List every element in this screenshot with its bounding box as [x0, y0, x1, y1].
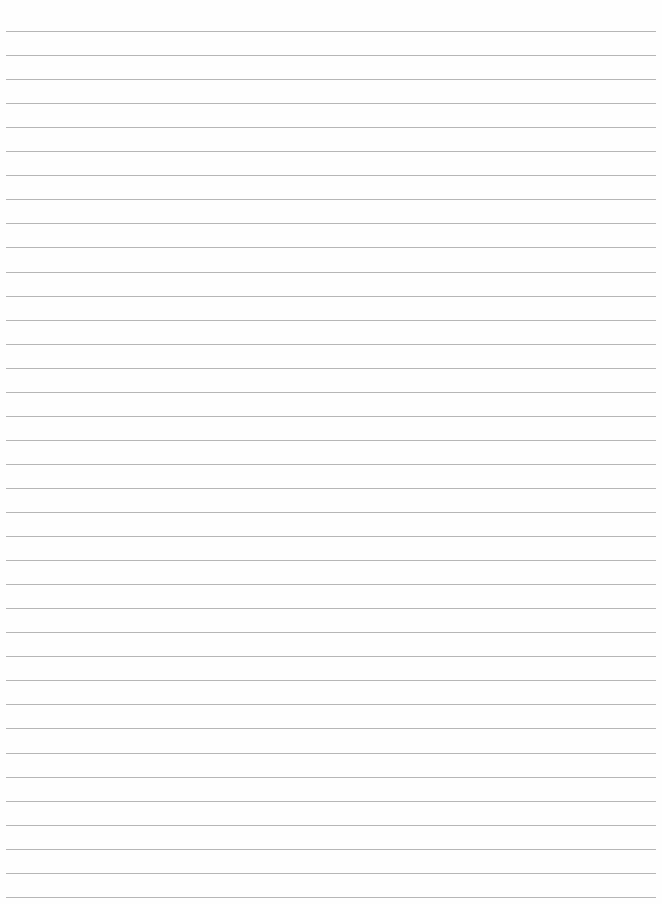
- ruled-line: [6, 247, 656, 248]
- ruled-line: [6, 223, 656, 224]
- ruled-line: [6, 488, 656, 489]
- ruled-line: [6, 873, 656, 874]
- ruled-line: [6, 680, 656, 681]
- ruled-line: [6, 127, 656, 128]
- ruled-line: [6, 801, 656, 802]
- ruled-line: [6, 704, 656, 705]
- ruled-line: [6, 728, 656, 729]
- ruled-line: [6, 320, 656, 321]
- ruled-line: [6, 392, 656, 393]
- ruled-line: [6, 777, 656, 778]
- ruled-line: [6, 199, 656, 200]
- ruled-line: [6, 849, 656, 850]
- ruled-line: [6, 656, 656, 657]
- ruled-line: [6, 296, 656, 297]
- lined-paper-page: [0, 0, 662, 904]
- ruled-line: [6, 512, 656, 513]
- ruled-line: [6, 55, 656, 56]
- ruled-line: [6, 464, 656, 465]
- ruled-line: [6, 897, 656, 898]
- ruled-line: [6, 344, 656, 345]
- ruled-line: [6, 416, 656, 417]
- ruled-line: [6, 825, 656, 826]
- ruled-line: [6, 440, 656, 441]
- ruled-line: [6, 632, 656, 633]
- ruled-line: [6, 584, 656, 585]
- ruled-line: [6, 272, 656, 273]
- ruled-line: [6, 103, 656, 104]
- ruled-line: [6, 151, 656, 152]
- ruled-line: [6, 560, 656, 561]
- ruled-line: [6, 608, 656, 609]
- ruled-line: [6, 753, 656, 754]
- ruled-line: [6, 79, 656, 80]
- ruled-line: [6, 536, 656, 537]
- ruled-line: [6, 31, 656, 32]
- ruled-line: [6, 368, 656, 369]
- ruled-line: [6, 175, 656, 176]
